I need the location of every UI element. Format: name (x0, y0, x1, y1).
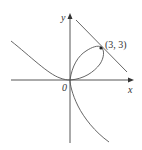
y-axis-label: y (60, 12, 66, 23)
point-label: (3, 3) (105, 39, 127, 51)
y-axis-arrow-icon (68, 13, 73, 19)
folium-lower-branch (70, 80, 109, 142)
tangent-point (99, 46, 102, 49)
folium-loop (70, 46, 104, 80)
origin-label: 0 (62, 82, 67, 93)
folium-left-branch (11, 41, 70, 80)
x-axis-label: x (127, 84, 133, 95)
x-axis-arrow-icon (128, 78, 134, 83)
folium-diagram: (3, 3) x y 0 (0, 0, 142, 150)
